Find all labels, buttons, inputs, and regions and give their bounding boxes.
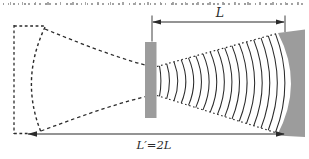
dimension-L-arrow-left xyxy=(152,20,161,25)
beam-envelope-lower-right xyxy=(157,96,277,134)
wavefront-arc xyxy=(232,46,240,119)
wavefront-arc xyxy=(167,64,170,99)
beam-envelope-upper-left xyxy=(45,29,151,67)
dimension-2L: L′=2L xyxy=(28,131,285,152)
wavefront-arc xyxy=(160,66,161,96)
wavefront-arc xyxy=(247,42,255,124)
wavefront-arc xyxy=(203,54,209,110)
beam-envelope-left xyxy=(41,29,151,131)
wavefront-arc xyxy=(189,58,194,106)
right-concave-mirror xyxy=(277,30,305,138)
wavefront-arc xyxy=(174,62,178,101)
wavefront-arc xyxy=(181,60,186,103)
dimension-L-arrow-right xyxy=(276,20,285,25)
diagram-canvas: L L′=2L xyxy=(0,0,309,159)
wavefront-arc xyxy=(210,52,217,112)
resonator-diagram: L L′=2L xyxy=(0,0,309,159)
left-virtual-mirror-dashed-arc xyxy=(31,27,45,132)
center-flat-mirror xyxy=(145,42,157,118)
wavefront-arc xyxy=(196,56,202,108)
beam-envelope-lower-left xyxy=(41,96,151,132)
dimension-L: L xyxy=(152,5,285,42)
dimension-L-label: L xyxy=(215,5,224,20)
wavefront-arc xyxy=(218,50,225,115)
dimension-2L-label: L′=2L xyxy=(136,138,172,152)
wavefront-arc xyxy=(239,44,247,121)
left-virtual-mirror-outline xyxy=(14,25,45,134)
beam-envelope-upper-right xyxy=(157,34,277,67)
dimension-2L-arrow-left xyxy=(28,131,38,136)
wavefront-arc xyxy=(225,48,232,117)
